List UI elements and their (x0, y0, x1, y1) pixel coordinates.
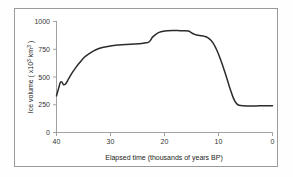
ice-volume-curve (57, 31, 273, 106)
y-axis-title-suffix: ) (27, 41, 35, 45)
y-tick-label-1000: 1000 (34, 18, 50, 25)
x-axis-title: Elapsed time (thousands of years BP) (105, 154, 223, 162)
x-tick-label-30: 30 (107, 138, 115, 145)
y-tick-label-0: 0 (46, 129, 50, 136)
y-tick-label-250: 250 (38, 101, 50, 108)
x-tick-label-20: 20 (161, 138, 169, 145)
y-axis-title-prefix: Ice volume ( x10 (27, 62, 35, 113)
y-axis-title: Ice volume ( x103 km3 ) (26, 41, 36, 113)
x-tick-marks (57, 133, 273, 137)
figure-container: 1000 750 500 250 0 40 30 20 10 0 Elapsed… (0, 0, 293, 177)
y-axis-title-mid: km (27, 48, 34, 59)
svg-text:Ice volume ( x103 km3 ): Ice volume ( x103 km3 ) (26, 41, 36, 113)
x-tick-label-10: 10 (215, 138, 223, 145)
y-tick-marks (53, 22, 57, 133)
y-tick-label-500: 500 (38, 74, 50, 81)
chart-canvas: 1000 750 500 250 0 40 30 20 10 0 Elapsed… (0, 0, 293, 177)
x-tick-label-0: 0 (271, 138, 275, 145)
x-tick-label-40: 40 (53, 138, 61, 145)
y-tick-label-750: 750 (38, 46, 50, 53)
